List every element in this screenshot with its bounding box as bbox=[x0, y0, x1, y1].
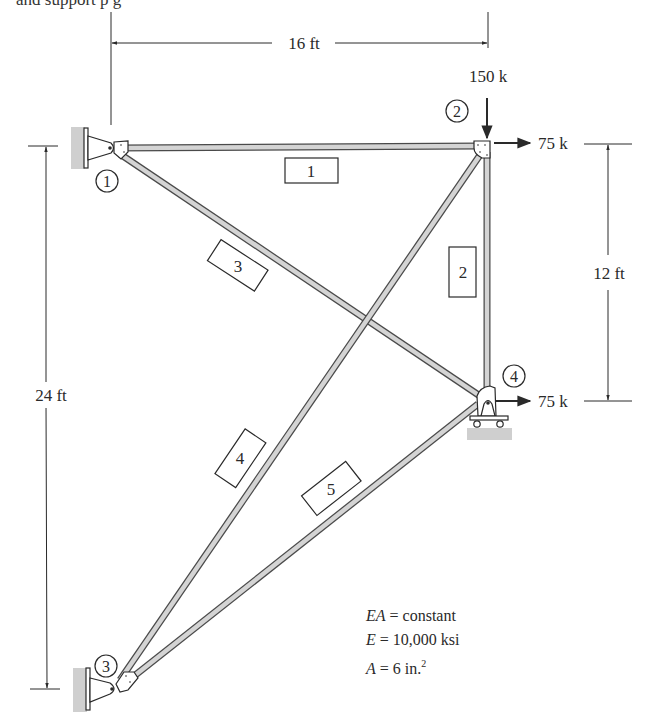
property-ea-value: = constant bbox=[386, 607, 456, 624]
dimension-left-24ft: 24 ft bbox=[18, 146, 78, 689]
dimension-top-16ft: 16 ft bbox=[111, 12, 488, 125]
svg-text:2: 2 bbox=[459, 263, 468, 282]
svg-text:1: 1 bbox=[307, 162, 316, 181]
property-a: A = 6 in.2 bbox=[366, 652, 459, 681]
property-e-symbol: E bbox=[366, 631, 376, 648]
joint-1-marker: 1 bbox=[96, 170, 118, 192]
svg-text:75 k: 75 k bbox=[538, 134, 568, 153]
load-arrow-75k-joint4: 75 k bbox=[496, 392, 568, 411]
svg-text:2: 2 bbox=[453, 103, 461, 120]
property-ea: EA = constant bbox=[366, 604, 459, 628]
svg-text:3: 3 bbox=[234, 257, 243, 276]
load-arrow-75k-joint2: 75 k bbox=[494, 134, 568, 153]
property-ea-symbol: EA bbox=[366, 607, 386, 624]
dimension-right-12ft: 12 ft bbox=[584, 144, 632, 401]
joint-1-pin-support bbox=[71, 127, 128, 169]
material-properties: EA = constant E = 10,000 ksi A = 6 in.2 bbox=[366, 604, 459, 681]
truss-diagram: 16 ft 12 ft 24 ft 1 bbox=[0, 0, 647, 720]
property-a-exponent: 2 bbox=[421, 658, 426, 669]
svg-text:75 k: 75 k bbox=[538, 392, 568, 411]
svg-text:4: 4 bbox=[510, 368, 518, 385]
load-arrow-150k: 150 k bbox=[469, 67, 508, 138]
svg-text:5: 5 bbox=[327, 480, 336, 499]
member-label-1: 1 bbox=[285, 158, 338, 183]
dimension-label-24ft: 24 ft bbox=[35, 386, 67, 405]
property-a-symbol: A bbox=[366, 660, 376, 677]
property-e-value: = 10,000 ksi bbox=[376, 631, 460, 648]
joint-2-marker: 2 bbox=[446, 100, 468, 122]
property-a-value: = 6 in. bbox=[376, 660, 421, 677]
svg-text:4: 4 bbox=[236, 449, 245, 468]
svg-text:1: 1 bbox=[103, 173, 111, 190]
svg-text:150 k: 150 k bbox=[469, 67, 508, 86]
svg-text:3: 3 bbox=[102, 658, 110, 675]
member-label-2: 2 bbox=[449, 247, 476, 297]
joint-3-marker: 3 bbox=[95, 655, 117, 677]
dimension-label-12ft: 12 ft bbox=[593, 264, 625, 283]
joint-4-marker: 4 bbox=[503, 365, 525, 387]
dimension-label-16ft: 16 ft bbox=[288, 34, 320, 53]
property-e: E = 10,000 ksi bbox=[366, 628, 459, 652]
